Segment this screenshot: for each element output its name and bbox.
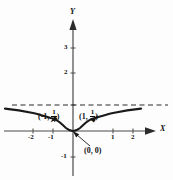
- x-tick-label-neg1: -1: [48, 134, 54, 141]
- y-axis-name: Y: [70, 8, 75, 16]
- right-point-open: (1,: [79, 112, 90, 121]
- origin-leader-line: [73, 131, 90, 146]
- x-tick-label-neg2: -2: [28, 134, 34, 141]
- y-tick-label-neg1: -1: [61, 153, 67, 160]
- left-point-open: (-1,: [38, 112, 51, 121]
- right-point-label: (1, 14): [79, 109, 98, 124]
- y-axis: [69, 19, 76, 176]
- y-tick-label-3: 3: [64, 44, 68, 51]
- left-point-close: ): [57, 112, 60, 121]
- x-tick-label-1: 1: [111, 134, 115, 141]
- x-axis-name: X: [160, 125, 165, 133]
- x-tick-label-2: 2: [131, 134, 135, 141]
- y-tick-label-2: 2: [64, 69, 68, 76]
- origin-point-label: (0, 0): [84, 147, 101, 155]
- left-point-label: (-1, 14): [38, 109, 60, 124]
- right-point-close: ): [95, 112, 98, 121]
- graph-figure: -2 -1 1 2 3 2 -1 X Y (-1, 14) (1, 14) (0…: [0, 0, 173, 180]
